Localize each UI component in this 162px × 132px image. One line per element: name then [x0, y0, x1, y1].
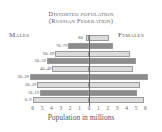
age-group-label: 20–29 — [24, 82, 37, 88]
x-tick-label: 3 — [59, 105, 62, 111]
chart-subtitle: (Russian Federation) — [0, 17, 162, 24]
x-axis-ticks: 6543210123456 — [0, 105, 162, 113]
female-bar — [89, 82, 140, 88]
female-bar — [89, 58, 136, 64]
age-group-label: 40–49 — [39, 66, 52, 72]
age-group-label: 80+ — [77, 35, 86, 41]
female-bar — [89, 66, 133, 72]
pyramid-row: 40–49 — [0, 66, 162, 73]
female-bar — [89, 74, 148, 80]
x-axis-label: Population in millions — [0, 113, 162, 122]
x-tick-label: 6 — [144, 105, 147, 111]
female-bar — [89, 97, 144, 103]
x-tick-label: 3 — [116, 105, 119, 111]
x-tick-label: 2 — [106, 105, 109, 111]
x-tick-label: 2 — [69, 105, 72, 111]
male-bar — [47, 58, 89, 64]
female-bar — [89, 43, 113, 49]
x-tick-label: 5 — [41, 105, 44, 111]
chart-title: Distorted population — [0, 10, 162, 17]
pyramid-row: 70–79 — [0, 43, 162, 50]
male-bar — [55, 51, 89, 57]
age-group-label: 50–59 — [33, 58, 46, 64]
x-tick-label: 1 — [97, 105, 100, 111]
x-tick-label: 6 — [31, 105, 34, 111]
female-bar — [89, 51, 130, 57]
age-group-label: 0–9 — [24, 97, 33, 103]
center-axis — [89, 35, 90, 106]
x-tick-label: 5 — [135, 105, 138, 111]
pyramid-plot: 80+70–7960–6950–5940–4930–3920–2910–190–… — [0, 35, 162, 107]
pyramid-row: 0–9 — [0, 97, 162, 104]
male-bar — [33, 97, 89, 103]
pyramid-row: 80+ — [0, 35, 162, 42]
female-bar — [89, 90, 137, 96]
pyramid-row: 60–69 — [0, 51, 162, 58]
x-tick-label: 4 — [125, 105, 128, 111]
x-tick-label: 0 — [88, 105, 91, 111]
age-group-label: 60–69 — [42, 51, 55, 57]
male-bar — [40, 90, 89, 96]
male-bar — [52, 66, 89, 72]
pyramid-row: 50–59 — [0, 58, 162, 65]
pyramid-row: 20–29 — [0, 82, 162, 89]
male-bar — [37, 82, 89, 88]
male-bar — [30, 74, 89, 80]
pyramid-row: 30–39 — [0, 74, 162, 81]
male-bar — [68, 43, 89, 49]
x-tick-label: 1 — [78, 105, 81, 111]
x-tick-label: 4 — [50, 105, 53, 111]
age-group-label: 10–19 — [27, 90, 40, 96]
age-group-label: 70–79 — [55, 43, 68, 49]
female-bar — [89, 35, 109, 41]
age-group-label: 30–39 — [17, 74, 30, 80]
pyramid-row: 10–19 — [0, 90, 162, 97]
